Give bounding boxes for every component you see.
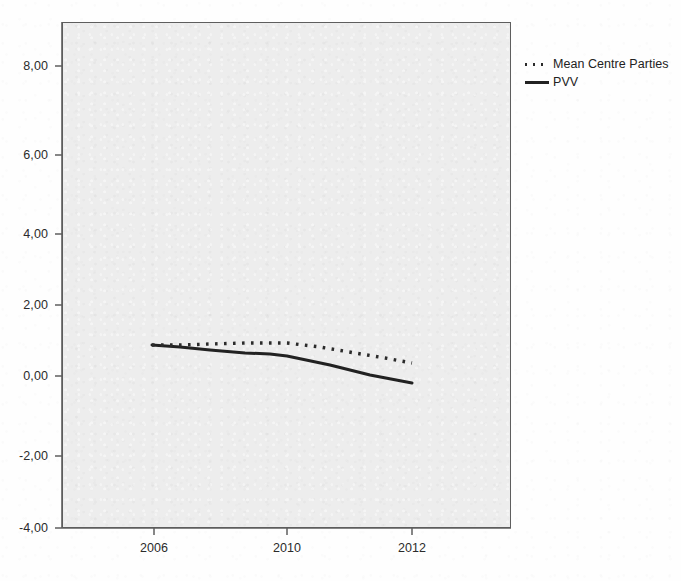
y-tick-label-4: 4,00	[6, 227, 48, 241]
y-tick-label-0: 0,00	[6, 369, 48, 383]
x-tick-label-2006: 2006	[124, 541, 184, 555]
legend-item-pvv: PVV	[524, 74, 676, 90]
y-tick-label-8: 8,00	[6, 59, 48, 73]
dotted-line-swatch	[524, 58, 550, 70]
solid-line-swatch	[524, 76, 550, 88]
legend-item-mean-centre-parties: Mean Centre Parties	[524, 56, 676, 72]
series-line-pvv	[152, 345, 412, 383]
chart-figure: 8,00 6,00 4,00 2,00 0,00 -2,00 -4,00 200…	[0, 0, 681, 581]
y-tick-label-2: 2,00	[6, 298, 48, 312]
legend-label-pvv: PVV	[553, 75, 578, 89]
x-tick-label-2010: 2010	[257, 541, 317, 555]
chart-legend: Mean Centre Parties PVV	[524, 56, 676, 92]
y-tick-marks	[55, 66, 62, 528]
y-tick-label-6: 6,00	[6, 148, 48, 162]
x-tick-label-2012: 2012	[382, 541, 442, 555]
legend-label-mean-centre-parties: Mean Centre Parties	[553, 57, 669, 71]
series-line-mean-centre-parties	[152, 343, 412, 363]
y-tick-label-minus-2: -2,00	[2, 449, 48, 463]
y-tick-label-minus-4: -4,00	[2, 521, 48, 535]
x-tick-marks	[154, 528, 412, 535]
